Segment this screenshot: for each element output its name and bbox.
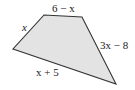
side-label-bottom-text: x + 5: [36, 66, 59, 78]
side-label-left: x: [22, 22, 27, 33]
side-label-right-text: 3x − 8: [100, 39, 128, 51]
side-label-top-text: 6 − x: [52, 2, 75, 14]
side-label-top: 6 − x: [52, 3, 75, 14]
side-label-right: 3x − 8: [100, 40, 128, 51]
side-label-bottom: x + 5: [36, 67, 59, 78]
side-label-left-text: x: [22, 21, 27, 33]
